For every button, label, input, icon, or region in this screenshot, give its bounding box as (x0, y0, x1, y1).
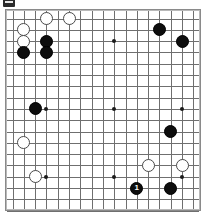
star-point (112, 175, 116, 179)
grid-line-horizontal (7, 19, 199, 20)
grid-line-horizontal (7, 98, 199, 99)
stone-white[interactable] (40, 12, 53, 25)
stone-white[interactable] (63, 12, 76, 25)
grid-line-horizontal (7, 52, 199, 53)
grid-line-horizontal (7, 165, 199, 166)
dark-tab-glyph (3, 0, 15, 7)
go-board[interactable]: 1 (5, 9, 201, 211)
grid-line-horizontal (7, 41, 199, 42)
star-point (180, 175, 184, 179)
grid-line-horizontal (7, 211, 199, 212)
stone-white[interactable] (176, 159, 189, 172)
grid-line-horizontal (7, 143, 199, 144)
go-diagram-root: 1 (0, 0, 206, 213)
stone-move-number: 1 (131, 183, 142, 194)
stone-black[interactable] (29, 102, 42, 115)
grid-line-horizontal (7, 64, 199, 65)
stone-black[interactable] (176, 35, 189, 48)
stone-black-marked[interactable]: 1 (130, 182, 143, 195)
grid-line-horizontal (7, 120, 199, 121)
star-point (180, 107, 184, 111)
grid-line-horizontal (7, 86, 199, 87)
stone-black[interactable] (164, 182, 177, 195)
grid-line-horizontal (7, 30, 199, 31)
grid-line-horizontal (7, 199, 199, 200)
stone-white[interactable] (29, 170, 42, 183)
grid-line-horizontal (7, 75, 199, 76)
stone-white[interactable] (142, 159, 155, 172)
grid-line-horizontal (7, 154, 199, 155)
stone-black[interactable] (40, 46, 53, 59)
